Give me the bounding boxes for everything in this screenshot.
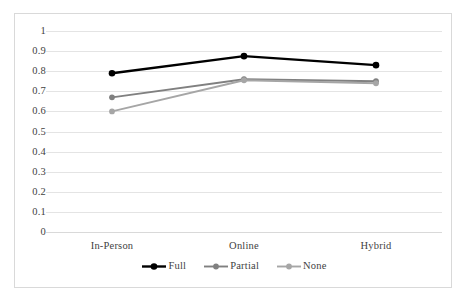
y-tick-label: 0.6 (6, 106, 46, 116)
data-point-none (109, 109, 115, 115)
data-point-full (241, 53, 248, 60)
chart-container: 10.90.80.70.60.50.40.30.20.10 In-PersonO… (14, 13, 452, 288)
y-tick-label: 0.2 (6, 187, 46, 197)
x-tick-label: Hybrid (361, 240, 392, 252)
y-tick-label: 1 (6, 26, 46, 36)
data-point-none (373, 80, 379, 86)
legend-marker-icon (141, 261, 167, 272)
y-tick-label: 0.1 (6, 207, 46, 217)
series-layer (46, 31, 442, 232)
data-point-full (373, 62, 380, 69)
legend-label: Full (168, 260, 186, 272)
legend-item-full[interactable]: Full (141, 260, 186, 272)
x-tick-label: Online (229, 240, 259, 252)
y-tick-label: 0.9 (6, 46, 46, 56)
legend-item-partial[interactable]: Partial (203, 260, 259, 272)
data-point-full (109, 70, 116, 77)
legend-marker-icon (203, 261, 229, 272)
data-point-none (241, 77, 247, 83)
y-tick-label: 0 (6, 227, 46, 237)
series-line-none (112, 80, 376, 111)
gridline (46, 232, 442, 233)
data-point-partial (109, 94, 115, 100)
y-axis-labels: 10.90.80.70.60.50.40.30.20.10 (9, 31, 46, 232)
x-tick-label: In-Person (91, 240, 134, 252)
legend-label: Partial (230, 260, 259, 272)
y-tick-label: 0.4 (6, 147, 46, 157)
legend-marker-icon (276, 261, 302, 272)
chart-legend: FullPartialNone (15, 260, 453, 272)
y-tick-label: 0.7 (6, 86, 46, 96)
legend-item-none[interactable]: None (276, 260, 327, 272)
legend-label: None (303, 260, 327, 272)
y-tick-label: 0.5 (6, 127, 46, 137)
y-tick-label: 0.8 (6, 66, 46, 76)
y-tick-label: 0.3 (6, 167, 46, 177)
x-axis-labels: In-PersonOnlineHybrid (46, 240, 442, 256)
